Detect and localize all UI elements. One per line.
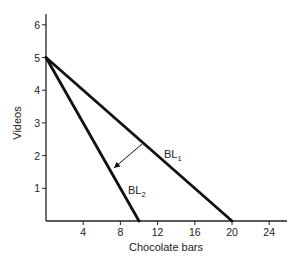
x-tick-label: 8: [117, 226, 123, 238]
x-tick-label: 24: [263, 226, 275, 238]
x-tick-label: 16: [189, 226, 201, 238]
budget-line-bl2: [46, 58, 139, 222]
label-bl1: BL1: [164, 148, 182, 163]
y-tick-label: 1: [34, 182, 40, 194]
budget-lines: [46, 58, 232, 222]
label-bl2: BL2: [128, 184, 146, 199]
shift-arrow: [114, 144, 142, 168]
y-tick-label: 3: [34, 117, 40, 129]
line-labels: BL1BL2: [128, 148, 182, 199]
x-tick-label: 4: [80, 226, 86, 238]
y-axis-label: Videos: [11, 106, 23, 140]
y-tick-label: 2: [34, 150, 40, 162]
y-tick-label: 5: [34, 52, 40, 64]
axis-ticks: 4812162024123456: [34, 19, 275, 238]
y-tick-label: 4: [34, 84, 40, 96]
budget-line-bl1: [46, 58, 232, 222]
x-tick-label: 12: [152, 226, 164, 238]
x-tick-label: 20: [226, 226, 238, 238]
budget-line-chart: 4812162024123456 BL1BL2 Chocolate bars V…: [0, 0, 301, 268]
y-tick-label: 6: [34, 19, 40, 31]
x-axis-label: Chocolate bars: [129, 241, 203, 253]
axes: [46, 14, 287, 221]
arrow-line: [114, 144, 142, 168]
